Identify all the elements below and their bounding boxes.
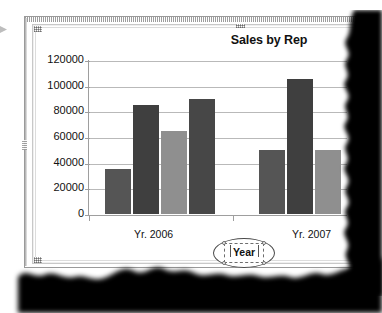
selection-handle-icon[interactable] <box>34 257 42 263</box>
bar[interactable] <box>105 169 131 214</box>
y-axis-tick-label: 40000 <box>28 156 84 168</box>
bar[interactable] <box>287 79 313 214</box>
page-edge-marker-icon <box>0 26 7 33</box>
y-axis-tick-label: 120000 <box>28 53 84 65</box>
x-axis-tick <box>89 215 90 221</box>
x-axis-label-2006: Yr. 2006 <box>134 228 173 240</box>
selection-handle-icon[interactable] <box>262 261 266 265</box>
y-axis-tick <box>85 61 90 62</box>
bar[interactable] <box>189 99 215 215</box>
year-callout[interactable]: Year <box>213 238 275 268</box>
chart-title: Sales by Rep <box>196 33 342 47</box>
scanned-page: Sales by Rep 020000400006000080000100000… <box>0 0 382 313</box>
y-axis-tick-label: 0 <box>28 207 84 219</box>
y-axis-tick-label: 20000 <box>28 181 84 193</box>
y-axis-tick-label: 60000 <box>28 130 84 142</box>
y-axis-tick-label: 80000 <box>28 104 84 116</box>
gridline <box>89 215 347 216</box>
hatched-selection-border <box>25 17 361 22</box>
selection-handle-icon[interactable] <box>34 26 42 32</box>
y-axis-tick <box>85 138 90 139</box>
plot-area <box>89 61 347 215</box>
bar[interactable] <box>161 131 187 214</box>
y-axis-tick <box>85 87 90 88</box>
selection-handle-icon[interactable] <box>262 241 266 245</box>
selection-handle-icon[interactable] <box>222 241 226 245</box>
y-axis-labels: 020000400006000080000100000120000 <box>26 61 84 215</box>
y-axis-tick <box>85 112 90 113</box>
y-axis-tick <box>85 164 90 165</box>
x-axis-label-2007: Yr. 2007 <box>292 228 331 240</box>
y-axis-tick-label: 100000 <box>28 79 84 91</box>
gridline <box>89 61 347 62</box>
callout-label: Year <box>213 246 275 258</box>
y-axis-tick <box>85 189 90 190</box>
selection-handle-icon[interactable] <box>236 24 245 28</box>
bar[interactable] <box>315 150 341 214</box>
x-axis-tick <box>233 215 234 221</box>
selection-handle-icon[interactable] <box>222 261 226 265</box>
bar[interactable] <box>259 150 285 214</box>
bar[interactable] <box>133 105 159 214</box>
